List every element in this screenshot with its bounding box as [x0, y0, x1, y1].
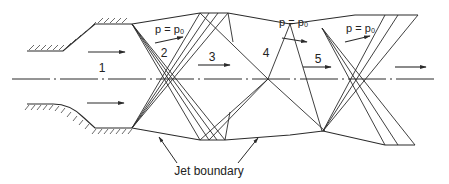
jet-boundary-lower	[132, 128, 415, 145]
pressure-label-after-5: p = p₀	[346, 22, 375, 34]
jet-flow-diagram: 1 2 3 4 5 p = p₀ p = p₀ p = p₀ Jet bound…	[0, 0, 449, 184]
pressure-label-region-4: p = p₀	[279, 16, 308, 28]
region-label-1: 1	[99, 61, 106, 75]
nozzle-hatching	[25, 18, 132, 134]
region-label-4: 4	[263, 46, 270, 60]
nozzle	[27, 24, 132, 128]
flow-arrow-after-5	[345, 36, 370, 42]
region-label-3: 3	[209, 50, 216, 64]
flow-arrows	[87, 36, 426, 103]
callout-leader-left	[159, 137, 177, 163]
jet-boundary-callout	[159, 137, 258, 163]
callout-leader-right	[238, 138, 258, 163]
nozzle-upper-wall	[27, 24, 132, 51]
shock-waves-cell-2	[290, 15, 418, 145]
pressure-label-region-2: p = p₀	[155, 23, 184, 35]
region-label-2: 2	[161, 46, 168, 60]
jet-boundary-caption: Jet boundary	[174, 164, 243, 178]
region-label-5: 5	[315, 52, 322, 66]
flow-arrow-region-2	[155, 37, 183, 43]
